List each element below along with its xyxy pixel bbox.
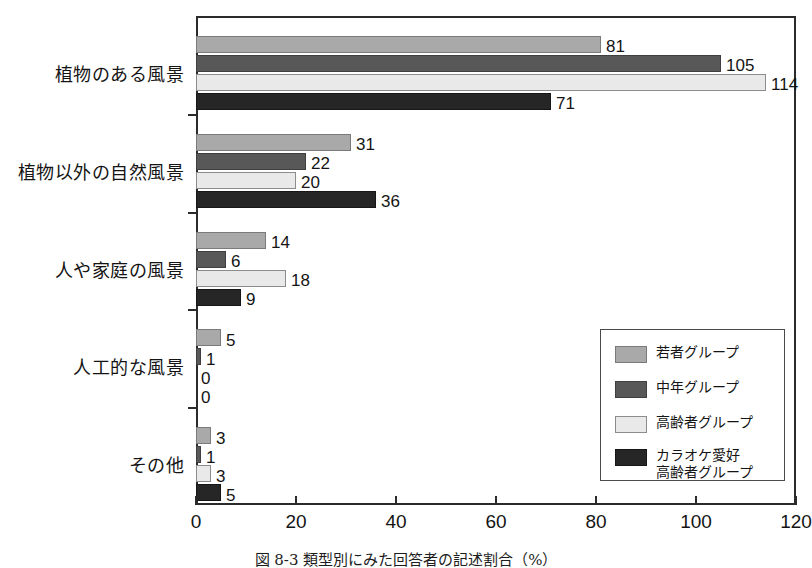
legend-swatch (615, 346, 647, 363)
category-label-5: その他 (129, 451, 185, 477)
bar (196, 270, 286, 287)
bar-value-label: 36 (381, 192, 400, 212)
bar (196, 427, 211, 444)
bar-value-label: 9 (246, 290, 255, 310)
bar (196, 446, 201, 463)
x-axis-tick (695, 496, 697, 505)
bar (196, 55, 721, 72)
legend-swatch (615, 449, 647, 466)
x-axis-tick-label: 100 (680, 511, 712, 533)
bar-value-label: 114 (771, 75, 798, 95)
legend-label: 高齢者グループ (656, 414, 753, 431)
legend-item-3: 高齢者グループ (615, 414, 753, 433)
category-axis: 植物のある風景植物以外の自然風景人や家庭の風景人工的な風景その他 (0, 16, 190, 505)
x-axis-tick-label: 40 (385, 511, 406, 533)
bar (196, 329, 221, 346)
bar (196, 484, 221, 501)
bar-value-label: 31 (356, 135, 375, 155)
legend-swatch (615, 381, 647, 398)
bar (196, 232, 266, 249)
x-axis-tick (595, 496, 597, 505)
chart-legend: 若者グループ中年グループ高齢者グループカラオケ愛好 高齢者グループ (600, 329, 785, 481)
category-separator-tick (188, 407, 197, 409)
category-label-2: 植物以外の自然風景 (18, 158, 185, 184)
x-axis-tick (295, 496, 297, 505)
figure-caption: 図 8-3 類型別にみた回答者の記述割合（%） (0, 548, 812, 568)
bar-value-label: 3 (216, 429, 225, 449)
legend-item-2: 中年グループ (615, 379, 739, 398)
category-label-3: 人や家庭の風景 (55, 256, 185, 282)
x-axis-tick-label: 0 (191, 511, 202, 533)
category-label-4: 人工的な風景 (73, 353, 184, 379)
legend-swatch (615, 416, 647, 433)
bar (196, 153, 306, 170)
bar (196, 134, 351, 151)
bar-chart-figure: 植物のある風景植物以外の自然風景人や家庭の風景人工的な風景その他 8110511… (0, 0, 812, 568)
legend-label: 若者グループ (656, 344, 739, 361)
bar-value-label: 5 (226, 486, 235, 506)
bar (196, 191, 376, 208)
category-label-1: 植物のある風景 (55, 60, 185, 86)
bar (196, 93, 551, 110)
category-separator-tick (188, 114, 197, 116)
legend-label: 中年グループ (656, 379, 739, 396)
x-axis-tick-label: 120 (780, 511, 812, 533)
x-axis-tick-label: 80 (585, 511, 606, 533)
bar (196, 172, 296, 189)
category-separator-tick (188, 212, 197, 214)
bar (196, 251, 226, 268)
legend-item-4: カラオケ愛好 高齢者グループ (615, 447, 753, 481)
bar-value-label: 0 (201, 388, 210, 408)
bar (196, 465, 211, 482)
x-axis-tick-label: 20 (285, 511, 306, 533)
legend-label: カラオケ愛好 高齢者グループ (656, 447, 753, 481)
bar-value-label: 18 (291, 271, 310, 291)
x-axis: 020406080100120 (196, 505, 796, 545)
category-separator-tick (188, 309, 197, 311)
bar (196, 348, 201, 365)
x-axis-tick-label: 60 (485, 511, 506, 533)
bar-value-label: 1 (206, 350, 215, 370)
bar-value-label: 5 (226, 331, 235, 351)
x-axis-tick (495, 496, 497, 505)
bar (196, 36, 601, 53)
x-axis-tick (195, 496, 197, 505)
x-axis-tick (395, 496, 397, 505)
bar-value-label: 71 (556, 94, 575, 114)
bar-value-label: 22 (311, 154, 330, 174)
x-axis-tick (795, 496, 797, 505)
bar (196, 74, 766, 91)
bar-value-label: 0 (201, 369, 210, 389)
bar-value-label: 14 (271, 233, 290, 253)
legend-item-1: 若者グループ (615, 344, 739, 363)
bar (196, 289, 241, 306)
